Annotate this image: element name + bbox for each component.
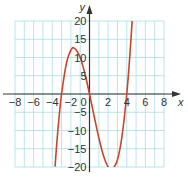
x-tick-label: −4 [46, 96, 59, 108]
y-tick-label: 15 [74, 33, 86, 45]
y-tick-label: −15 [68, 143, 87, 155]
y-tick-label: −20 [68, 161, 87, 173]
x-axis-label: x [177, 96, 184, 108]
x-tick-label: 6 [142, 96, 148, 108]
y-axis-label: y [79, 1, 87, 13]
y-tick-label: 20 [74, 15, 86, 27]
y-axis-arrow-icon [87, 5, 93, 14]
y-tick-label: 10 [74, 52, 86, 64]
x-tick-label: 4 [124, 96, 130, 108]
x-tick-label: −6 [27, 96, 40, 108]
x-tick-label: 8 [161, 96, 167, 108]
x-tick-label: −8 [9, 96, 22, 108]
x-tick-label: 2 [105, 96, 111, 108]
cubic-graph: −8−6−4−2024682015105−5−10−15−20xy [0, 0, 188, 177]
tick-labels: −8−6−4−2024682015105−5−10−15−20xy [9, 1, 184, 173]
y-tick-label: −10 [68, 125, 87, 137]
y-tick-label: 5 [80, 70, 86, 82]
y-tick-label: −5 [74, 106, 87, 118]
